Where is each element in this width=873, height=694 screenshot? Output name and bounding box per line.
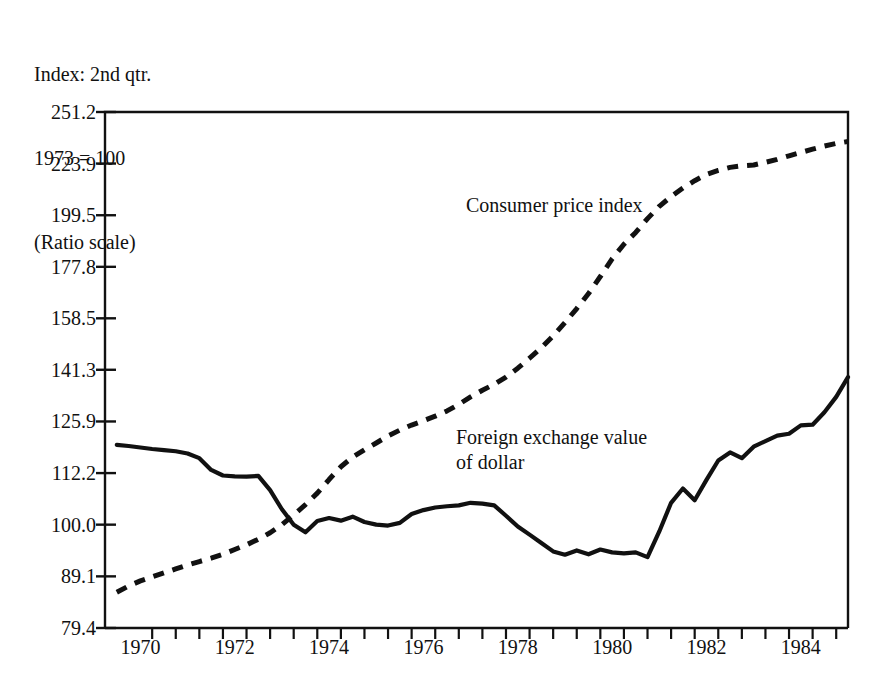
x-axis-tick-label: 1976 [388,636,458,659]
y-axis-tick-label: 112.2 [18,462,96,485]
x-axis-tick-label: 1972 [200,636,270,659]
series-label-consumer-price-index: Consumer price index [466,193,643,218]
y-axis-tick-label: 251.2 [18,101,96,124]
x-axis-tick-label: 1980 [577,636,647,659]
x-axis-tick-label: 1974 [294,636,364,659]
y-axis-tick-label: 177.8 [18,255,96,278]
plot-frame [105,112,848,628]
y-axis-tick-label: 223.9 [18,152,96,175]
x-axis-tick-label: 1978 [483,636,553,659]
series-label-foreign-exchange-value: Foreign exchange valueof dollar [456,425,647,475]
y-axis-tick-label: 199.5 [18,204,96,227]
chart-canvas [0,0,873,694]
x-axis-tick-label: 1970 [105,636,175,659]
y-axis-tick-label: 100.0 [18,513,96,536]
y-axis-tick-label: 79.4 [18,617,96,640]
x-axis-tick-label: 1982 [671,636,741,659]
y-axis-tick-label: 141.3 [18,358,96,381]
chart-page: Index: 2nd qtr. 1973 = 100 (Ratio scale)… [0,0,873,694]
y-axis-tick-label: 125.9 [18,410,96,433]
y-axis-tick-label: 158.5 [18,307,96,330]
x-axis-tick-label: 1984 [766,636,836,659]
chart-plot-area: 251.2223.9199.5177.8158.5141.3125.9112.2… [0,0,873,694]
y-axis-tick-label: 89.1 [18,565,96,588]
